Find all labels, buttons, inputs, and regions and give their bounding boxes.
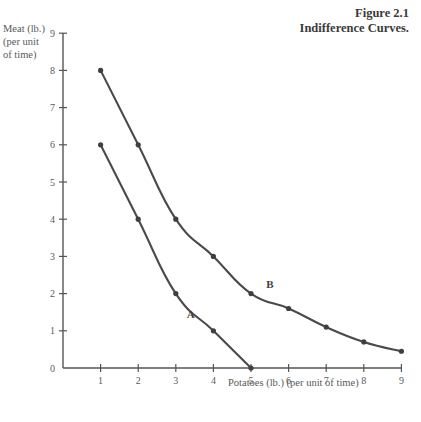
data-point bbox=[248, 291, 253, 296]
data-point bbox=[136, 142, 141, 147]
data-point bbox=[173, 217, 178, 222]
x-tick-label: 6 bbox=[286, 375, 291, 386]
y-tick-label: 0 bbox=[50, 363, 55, 374]
data-point bbox=[173, 291, 178, 296]
x-tick-label: 8 bbox=[361, 375, 366, 386]
curve-label-b: B bbox=[266, 278, 274, 290]
y-tick-label: 1 bbox=[50, 325, 55, 336]
plot-area: 0123456789 123456789 AB bbox=[0, 0, 421, 422]
y-tick-label: 5 bbox=[50, 177, 55, 188]
figure-container: Figure 2.1 Indifference Curves. Meat (lb… bbox=[0, 0, 421, 422]
x-tick-label: 9 bbox=[399, 375, 404, 386]
x-tick-label: 4 bbox=[211, 375, 216, 386]
x-tick-label: 3 bbox=[173, 375, 178, 386]
y-tick-label: 6 bbox=[50, 139, 55, 150]
y-tick-group: 0123456789 bbox=[50, 28, 67, 374]
axis-group bbox=[63, 33, 402, 368]
y-tick-label: 8 bbox=[50, 65, 55, 76]
y-tick-label: 3 bbox=[50, 251, 55, 262]
data-point bbox=[211, 328, 216, 333]
x-tick-label: 5 bbox=[249, 375, 254, 386]
curves-group bbox=[98, 68, 404, 371]
curve-a bbox=[101, 145, 251, 368]
data-point bbox=[361, 339, 366, 344]
x-tick-label: 1 bbox=[98, 375, 103, 386]
y-tick-label: 4 bbox=[50, 214, 55, 225]
data-point bbox=[286, 306, 291, 311]
data-point bbox=[399, 349, 404, 354]
data-point bbox=[136, 217, 141, 222]
curve-label-a: A bbox=[187, 308, 195, 320]
y-tick-label: 2 bbox=[50, 288, 55, 299]
y-tick-label: 7 bbox=[50, 102, 55, 113]
data-point bbox=[324, 324, 329, 329]
data-point bbox=[98, 142, 103, 147]
x-tick-label: 7 bbox=[324, 375, 329, 386]
data-point bbox=[211, 254, 216, 259]
y-tick-label: 9 bbox=[50, 28, 55, 39]
curve-b bbox=[101, 70, 402, 351]
data-point bbox=[248, 365, 253, 370]
data-point bbox=[98, 68, 103, 73]
x-tick-label: 2 bbox=[136, 375, 141, 386]
